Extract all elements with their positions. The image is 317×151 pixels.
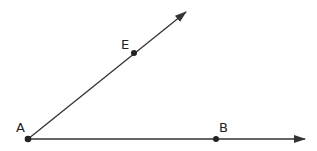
point-e bbox=[131, 50, 137, 56]
label-a: A bbox=[16, 120, 25, 135]
label-e: E bbox=[121, 37, 129, 52]
ray-ae bbox=[28, 12, 186, 139]
point-b bbox=[213, 136, 219, 142]
label-b: B bbox=[219, 120, 228, 135]
point-a bbox=[25, 136, 32, 143]
angle-diagram: A E B bbox=[0, 0, 317, 151]
